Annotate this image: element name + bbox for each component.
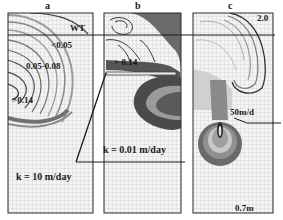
conductivity-label-high: k = 10 m/day xyxy=(16,172,71,182)
contour-label-high-b: > 0.14 xyxy=(114,58,137,67)
contour-label-high-a: >0.14 xyxy=(12,96,33,105)
conductivity-label-c: 50m/d xyxy=(230,108,254,117)
panel-a-letter: a xyxy=(45,1,50,11)
water-table-label: WT xyxy=(70,24,85,33)
contour-label-low: <0.05 xyxy=(51,41,72,50)
conductivity-label-low: k = 0.01 m/day xyxy=(103,145,166,155)
contour-label-top-c: 2.0 xyxy=(257,14,268,23)
panel-b-letter: b xyxy=(135,1,141,11)
panel-b xyxy=(104,13,181,213)
panel-c-letter: c xyxy=(228,1,232,11)
scale-label-c: 0.7m xyxy=(235,204,254,213)
contour-label-mid: 0.05-0.08 xyxy=(26,62,61,71)
